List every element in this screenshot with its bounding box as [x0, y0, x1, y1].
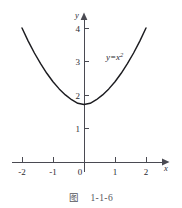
curve-equation-exponent: 2	[120, 51, 124, 58]
figure-caption: 图 1-1-6	[69, 190, 113, 204]
curve-equation-label: y=x2	[105, 51, 124, 63]
x-tick-label-1: 1	[113, 167, 118, 177]
curve-equation-base: y=x	[105, 52, 120, 62]
y-axis-arrow-icon	[81, 13, 88, 21]
x-tick-label-zero: 0	[78, 167, 83, 177]
x-tick-label-minus1: -1	[49, 167, 57, 177]
parabola-plot: -2 -1 0 1 2 1 2 3 4 y x y=x2	[0, 0, 182, 186]
x-axis-label: x	[163, 163, 168, 173]
figure-container: -2 -1 0 1 2 1 2 3 4 y x y=x2 图 1-1-6	[0, 0, 182, 208]
y-tick-label-1: 1	[76, 124, 81, 134]
y-tick-label-4: 4	[76, 24, 81, 34]
y-axis-label: y	[74, 10, 79, 20]
x-tick-label-2: 2	[144, 167, 149, 177]
figure-caption-bar: 图 1-1-6	[0, 186, 182, 208]
x-tick-label-minus2: -2	[18, 167, 26, 177]
y-tick-label-3: 3	[76, 57, 81, 67]
y-tick-label-2: 2	[76, 91, 81, 101]
